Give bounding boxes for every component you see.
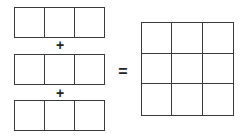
grid-cell xyxy=(203,54,233,85)
equals-sign: = xyxy=(116,65,130,79)
grid-cell xyxy=(172,84,202,115)
row-3 xyxy=(14,100,105,131)
row-cell xyxy=(45,101,75,130)
row-cell xyxy=(15,55,45,84)
row-1 xyxy=(14,7,105,38)
grid-cell xyxy=(172,54,202,85)
grid-cell xyxy=(142,23,172,54)
row-cell xyxy=(45,55,75,84)
row-cell xyxy=(75,8,104,37)
row-cell xyxy=(75,101,104,130)
grid-cell xyxy=(203,23,233,54)
plus-sign: + xyxy=(53,38,67,52)
plus-sign: + xyxy=(53,86,67,100)
grid-cell xyxy=(172,23,202,54)
result-grid xyxy=(141,22,234,116)
row-cell xyxy=(45,8,75,37)
grid-cell xyxy=(142,84,172,115)
row-cell xyxy=(15,101,45,130)
row-2 xyxy=(14,54,105,85)
row-cell xyxy=(15,8,45,37)
grid-cell xyxy=(142,54,172,85)
row-cell xyxy=(75,55,104,84)
grid-cell xyxy=(203,84,233,115)
